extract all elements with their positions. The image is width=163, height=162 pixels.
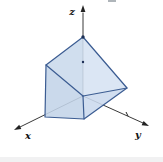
x-axis-label: x <box>24 130 32 141</box>
figure-stage: z x y <box>0 0 163 162</box>
y-axis-label: y <box>134 129 142 140</box>
solid-layer <box>45 37 127 119</box>
axes-solid-diagram: z x y <box>0 0 163 162</box>
page-edge-shadow <box>0 157 163 162</box>
page-scan-mark <box>108 0 116 2</box>
y-axis-arrowhead <box>142 121 149 126</box>
z-axis-tick-dot <box>82 61 84 63</box>
apex-vertex-dot <box>81 35 84 38</box>
x-axis-arrowhead <box>14 125 21 130</box>
upper-right-face <box>83 37 127 96</box>
z-axis-arrowhead <box>81 5 86 12</box>
z-axis-label: z <box>68 6 75 17</box>
